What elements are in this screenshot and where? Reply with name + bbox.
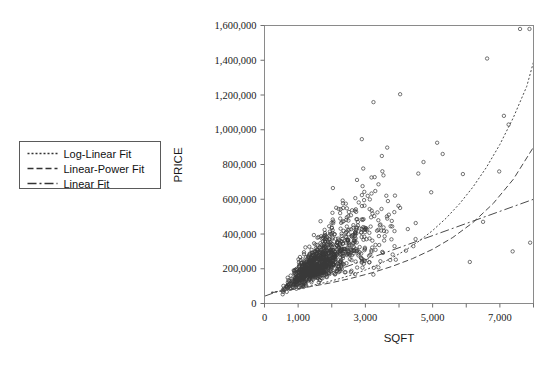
data-point bbox=[381, 170, 384, 173]
data-point bbox=[380, 207, 383, 210]
data-point bbox=[366, 194, 369, 197]
data-point bbox=[360, 193, 363, 196]
data-point bbox=[374, 248, 377, 251]
data-point bbox=[369, 225, 372, 228]
data-point bbox=[316, 236, 319, 239]
y-axis: 0200,000400,000600,000800,0001,000,0001,… bbox=[215, 20, 265, 309]
data-point bbox=[319, 220, 322, 223]
data-point bbox=[394, 258, 397, 261]
data-point bbox=[374, 189, 377, 192]
data-point-outlier bbox=[511, 250, 514, 253]
data-point bbox=[347, 219, 350, 222]
x-axis-title: SQFT bbox=[384, 332, 415, 344]
legend-label-2: Linear-Power Fit bbox=[64, 163, 145, 175]
data-point bbox=[398, 93, 401, 96]
data-point bbox=[391, 253, 394, 256]
data-point bbox=[390, 238, 393, 241]
data-point bbox=[361, 184, 364, 187]
y-tick-label: 400,000 bbox=[222, 229, 256, 240]
data-point bbox=[289, 274, 292, 277]
y-tick-label: 1,000,000 bbox=[215, 124, 257, 135]
data-point bbox=[379, 260, 382, 263]
data-point-outlier bbox=[502, 114, 505, 117]
data-point bbox=[378, 243, 381, 246]
data-point bbox=[372, 100, 375, 103]
data-point bbox=[368, 231, 371, 234]
data-point bbox=[360, 137, 363, 140]
data-point-outlier bbox=[528, 241, 531, 244]
data-point bbox=[377, 234, 380, 237]
y-tick-label: 200,000 bbox=[222, 263, 256, 274]
y-tick-label: 600,000 bbox=[222, 194, 256, 205]
y-tick-label: 1,200,000 bbox=[215, 90, 257, 101]
data-point bbox=[312, 233, 315, 236]
data-point bbox=[323, 228, 326, 231]
data-point bbox=[368, 198, 371, 201]
data-point bbox=[345, 207, 348, 210]
data-point bbox=[393, 244, 396, 247]
data-point bbox=[380, 154, 383, 157]
data-point bbox=[373, 214, 376, 217]
data-point bbox=[340, 232, 343, 235]
x-tick-label: 3,000 bbox=[354, 312, 378, 323]
data-point bbox=[386, 199, 389, 202]
scatter-plot-figure: 0200,000400,000600,000800,0001,000,0001,… bbox=[0, 0, 554, 368]
data-point bbox=[339, 227, 342, 230]
data-point bbox=[390, 219, 393, 222]
data-point bbox=[468, 260, 471, 263]
data-point bbox=[430, 191, 433, 194]
data-point bbox=[376, 211, 379, 214]
data-point bbox=[357, 201, 360, 204]
data-point bbox=[308, 245, 311, 248]
data-point bbox=[441, 152, 444, 155]
data-point bbox=[363, 190, 366, 193]
data-point bbox=[355, 266, 358, 269]
data-point bbox=[422, 160, 425, 163]
data-point bbox=[374, 243, 377, 246]
data-point bbox=[371, 239, 374, 242]
data-point-outlier bbox=[528, 27, 531, 30]
data-point bbox=[358, 245, 361, 248]
data-point bbox=[355, 178, 358, 181]
data-point bbox=[333, 267, 336, 270]
data-point bbox=[383, 235, 386, 238]
x-tick-label: 1,000 bbox=[286, 312, 310, 323]
data-point bbox=[377, 266, 380, 269]
data-point bbox=[385, 194, 388, 197]
y-tick-label: 0 bbox=[251, 298, 256, 309]
data-point-outlier bbox=[485, 57, 488, 60]
data-point bbox=[386, 217, 389, 220]
legend-label-3: Linear Fit bbox=[64, 178, 110, 190]
chart-canvas: 0200,000400,000600,000800,0001,000,0001,… bbox=[0, 0, 554, 368]
x-tick-label: 0 bbox=[262, 312, 267, 323]
data-point bbox=[339, 217, 342, 220]
legend-label-1: Log-Linear Fit bbox=[64, 148, 132, 160]
data-point bbox=[382, 174, 385, 177]
data-point bbox=[331, 211, 334, 214]
data-point bbox=[414, 221, 417, 224]
data-point bbox=[393, 229, 396, 232]
data-point bbox=[354, 196, 357, 199]
data-point bbox=[369, 216, 372, 219]
y-tick-label: 800,000 bbox=[222, 159, 256, 170]
y-tick-label: 1,600,000 bbox=[215, 20, 257, 31]
data-point bbox=[382, 226, 385, 229]
x-axis: 01,0003,0005,0007,000 bbox=[262, 304, 534, 323]
data-point bbox=[377, 183, 380, 186]
data-point bbox=[370, 192, 373, 195]
data-point bbox=[393, 194, 396, 197]
data-point bbox=[362, 167, 365, 170]
data-point bbox=[386, 146, 389, 149]
data-point bbox=[417, 172, 420, 175]
scatter-points bbox=[281, 27, 532, 296]
data-point bbox=[338, 211, 341, 214]
x-tick-label: 7,000 bbox=[488, 312, 512, 323]
data-point bbox=[435, 141, 438, 144]
data-point bbox=[382, 239, 385, 242]
data-point bbox=[304, 246, 307, 249]
y-axis-title: PRICE bbox=[172, 147, 184, 182]
data-point-outlier bbox=[481, 220, 484, 223]
data-point-outlier bbox=[498, 170, 501, 173]
y-tick-label: 1,400,000 bbox=[215, 55, 257, 66]
data-point-outlier bbox=[518, 27, 521, 30]
